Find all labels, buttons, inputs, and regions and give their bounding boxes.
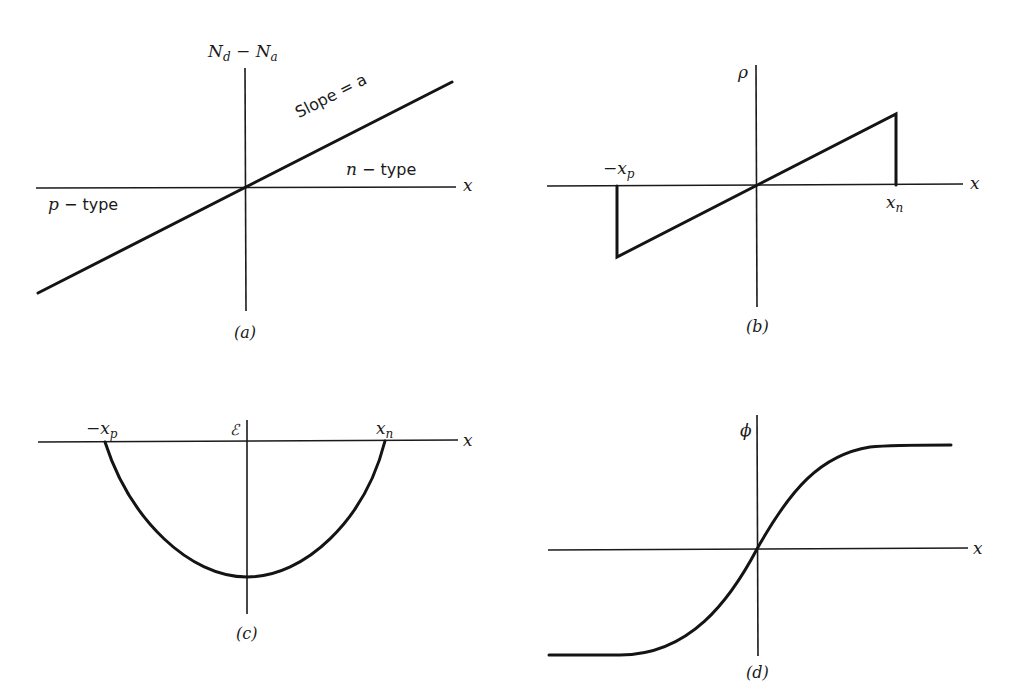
panel-b-x-label: x bbox=[970, 175, 980, 192]
panel-b-y-label: ρ bbox=[738, 64, 748, 81]
panel-b-caption: (b) bbox=[746, 319, 769, 335]
panel-c-left-edge-label: −xp bbox=[86, 420, 118, 437]
panel-c-y-label: ℰ bbox=[230, 423, 239, 438]
panel-b-left-edge-label: −xp bbox=[603, 160, 635, 177]
panel-d-graphics bbox=[548, 415, 968, 656]
panel-c-field-parabola bbox=[105, 441, 385, 577]
panel-c-x-axis bbox=[38, 440, 458, 442]
panel-b-right-edge-label: xn bbox=[886, 194, 903, 211]
panel-d-y-axis bbox=[757, 415, 758, 656]
panel-c-right-edge-label: xn bbox=[376, 420, 393, 437]
panel-a-n-type-label: n − type bbox=[346, 161, 416, 178]
panel-c-caption: (c) bbox=[236, 626, 257, 642]
panel-b-graphics bbox=[547, 65, 963, 307]
panel-a-p-type-label: p − type bbox=[48, 196, 118, 213]
panel-c-x-label: x bbox=[463, 432, 473, 449]
panel-d-y-label: ϕ bbox=[740, 422, 752, 439]
panel-a-graphics bbox=[36, 68, 456, 311]
panel-a-x-label: x bbox=[463, 177, 473, 194]
panel-a-y-axis bbox=[245, 68, 246, 311]
panel-a-caption: (a) bbox=[234, 325, 256, 341]
panel-a-y-label: Nd − Na bbox=[208, 43, 278, 60]
figure-canvas bbox=[0, 0, 1013, 699]
panel-d-caption: (d) bbox=[746, 665, 769, 681]
panel-d-x-label: x bbox=[973, 540, 983, 557]
panel-c-graphics bbox=[38, 420, 458, 614]
